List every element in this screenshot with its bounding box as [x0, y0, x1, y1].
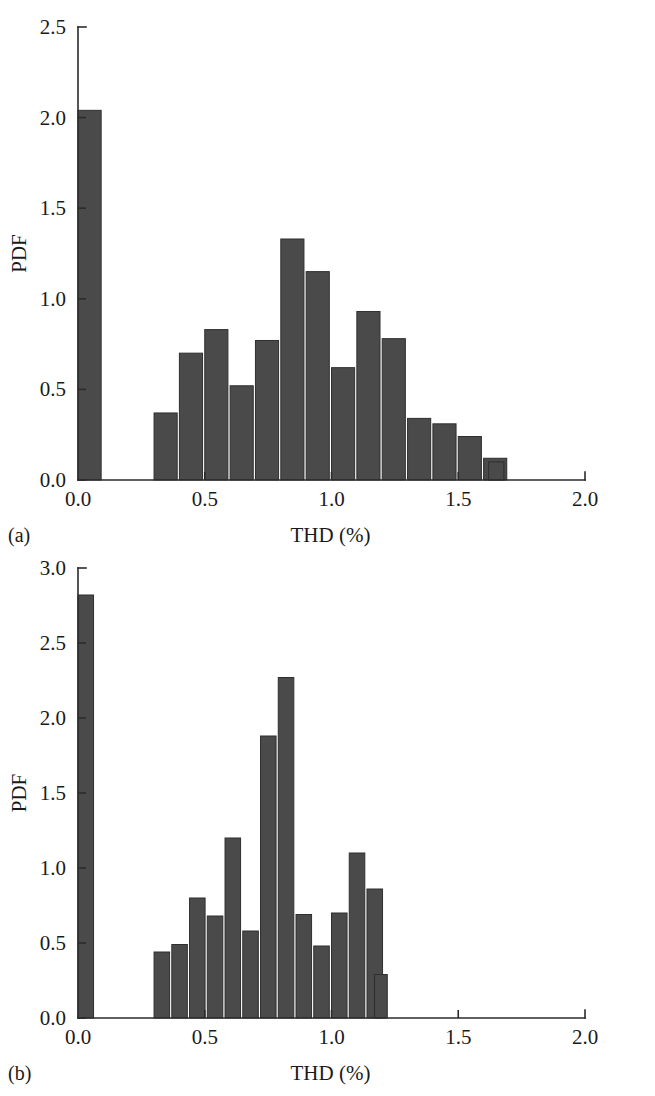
y-tick-label: 1.5: [40, 196, 66, 220]
y-tick-label: 2.0: [40, 106, 66, 130]
y-tick-label: 0.0: [40, 1006, 66, 1030]
y-tick-label: 1.0: [40, 287, 66, 311]
y-axis-title: PDF: [7, 774, 31, 813]
histogram-bar: [225, 838, 241, 1018]
y-tick-label: 2.5: [40, 15, 66, 39]
histogram-bar: [230, 386, 253, 480]
x-tick-label: 0.0: [65, 1025, 91, 1049]
x-tick-label: 1.5: [445, 1025, 471, 1049]
histogram-bar: [281, 239, 304, 480]
histogram-bar: [296, 915, 312, 1019]
figure-panel-b: 0.00.51.01.52.02.53.00.00.51.01.52.0PDFT…: [0, 548, 655, 1096]
x-axis-title: THD (%): [291, 523, 371, 547]
figure-panel-a: 0.00.51.01.52.02.50.00.51.01.52.0PDFTHD …: [0, 0, 655, 548]
y-tick-label: 1.5: [40, 781, 66, 805]
histogram-bar: [375, 975, 388, 1019]
x-tick-label: 0.5: [192, 487, 218, 511]
y-tick-label: 0.5: [40, 931, 66, 955]
histogram-bar: [489, 462, 504, 480]
histogram-bar: [306, 272, 329, 480]
histogram-bar: [190, 898, 206, 1018]
y-tick-label: 1.0: [40, 856, 66, 880]
panel-tag-label: (b): [8, 1062, 31, 1085]
y-tick-label: 2.5: [40, 631, 66, 655]
histogram-bar: [154, 413, 177, 480]
histogram-bar: [172, 945, 188, 1019]
histogram-bar: [408, 418, 431, 480]
histogram-bar: [278, 678, 294, 1019]
bars-group: [78, 595, 387, 1018]
x-tick-label: 1.0: [318, 487, 344, 511]
histogram-bar: [243, 931, 259, 1018]
panel-tag-label: (a): [8, 524, 30, 547]
histogram-bar: [179, 353, 202, 480]
histogram-bar: [349, 853, 365, 1018]
histogram-bar: [78, 110, 101, 480]
histogram-bar: [332, 913, 348, 1018]
y-tick-label: 2.0: [40, 706, 66, 730]
x-tick-label: 2.0: [572, 487, 598, 511]
y-tick-label: 0.0: [40, 468, 66, 492]
histogram-bar: [255, 340, 278, 480]
x-tick-label: 1.0: [318, 1025, 344, 1049]
histogram-bar: [433, 424, 456, 480]
x-tick-label: 0.5: [192, 1025, 218, 1049]
histogram-bar: [154, 952, 170, 1018]
bars-group: [78, 110, 507, 480]
y-tick-label: 3.0: [40, 556, 66, 580]
histogram-bar: [382, 339, 405, 480]
x-axis-title: THD (%): [291, 1061, 371, 1085]
x-tick-label: 1.5: [445, 487, 471, 511]
histogram-bar: [332, 368, 355, 480]
histogram-bar: [458, 437, 481, 480]
histogram-bar: [78, 595, 94, 1018]
y-axis-title: PDF: [7, 234, 31, 273]
histogram-bar: [207, 916, 223, 1018]
histogram-bar: [205, 330, 228, 480]
chart-b-canvas: 0.00.51.01.52.02.53.00.00.51.01.52.0PDFT…: [0, 548, 655, 1096]
histogram-bar: [261, 736, 277, 1018]
x-tick-label: 0.0: [65, 487, 91, 511]
chart-a-canvas: 0.00.51.01.52.02.50.00.51.01.52.0PDFTHD …: [0, 0, 655, 548]
histogram-bar: [357, 311, 380, 480]
y-tick-label: 0.5: [40, 377, 66, 401]
histogram-bar: [314, 946, 330, 1018]
x-tick-label: 2.0: [572, 1025, 598, 1049]
